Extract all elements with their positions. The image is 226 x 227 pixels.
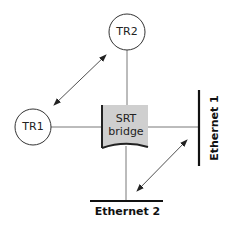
tr2-label: TR2 (109, 26, 145, 38)
ethernet1-label: Ethernet 1 (209, 91, 221, 166)
srt-bridge-diagram: TR2 TR1 SRT bridge Ethernet 2 Ethernet 1 (0, 0, 226, 227)
ethernet2-label: Ethernet 2 (90, 206, 165, 218)
bridge-label-line1: SRT (103, 113, 149, 125)
tr1-label: TR1 (15, 121, 51, 133)
bridge-label-line2: bridge (103, 126, 149, 138)
ethernet-double-arrow (137, 140, 187, 191)
tr1-tr2-double-arrow (54, 55, 106, 105)
